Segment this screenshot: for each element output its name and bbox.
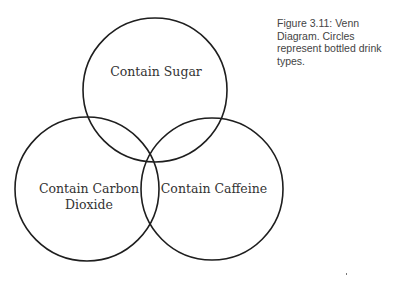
stray-mark — [346, 273, 347, 275]
figure-caption: Figure 3.11: Venn Diagram. Circles repre… — [277, 17, 401, 67]
label-caffeine: Contain Caffeine — [161, 181, 267, 196]
label-sugar: Contain Sugar — [110, 64, 202, 79]
label-carbon-dioxide-line1: Contain Carbon — [39, 181, 139, 196]
label-carbon-dioxide-line2: Dioxide — [65, 197, 113, 212]
circle-sugar — [83, 18, 227, 162]
